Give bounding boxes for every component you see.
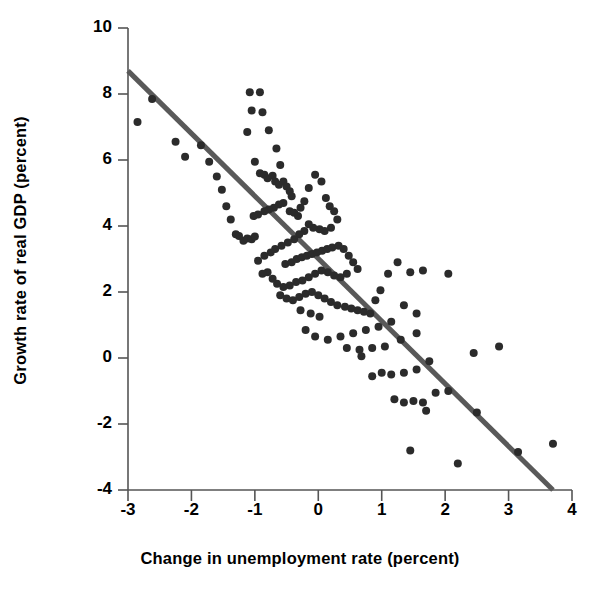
data-point xyxy=(254,257,262,265)
data-point xyxy=(256,88,264,96)
data-point xyxy=(248,107,256,115)
y-tick-label: 2 xyxy=(78,281,112,301)
data-point xyxy=(316,313,324,321)
data-point xyxy=(362,326,370,334)
data-point xyxy=(495,342,503,350)
data-point xyxy=(406,268,414,276)
data-point xyxy=(218,186,226,194)
data-point xyxy=(213,173,221,181)
data-point xyxy=(343,344,351,352)
data-point xyxy=(243,128,251,136)
x-tick-label: -3 xyxy=(113,500,143,520)
data-point xyxy=(422,407,430,415)
data-point xyxy=(134,118,142,126)
data-point xyxy=(425,357,433,365)
y-tick-label: 10 xyxy=(78,17,112,37)
data-point xyxy=(400,301,408,309)
data-point xyxy=(251,233,259,241)
data-point xyxy=(258,270,266,278)
data-point xyxy=(354,265,362,273)
x-tick-label: 3 xyxy=(494,500,524,520)
data-point xyxy=(276,161,284,169)
data-point xyxy=(387,371,395,379)
data-point xyxy=(381,342,389,350)
data-point xyxy=(258,108,266,116)
data-point xyxy=(514,448,522,456)
data-point xyxy=(336,333,344,341)
data-point xyxy=(384,270,392,278)
y-tick-label: 0 xyxy=(78,347,112,367)
data-point xyxy=(349,258,357,266)
data-point xyxy=(205,158,213,166)
data-point xyxy=(444,387,452,395)
y-tick-label: -4 xyxy=(78,479,112,499)
data-point xyxy=(400,369,408,377)
data-point xyxy=(345,252,353,260)
data-point xyxy=(371,296,379,304)
y-tick-label: -2 xyxy=(78,413,112,433)
data-point xyxy=(413,309,421,317)
y-axis-title-container: Growth rate of real GDP (percent) xyxy=(0,0,40,500)
data-point xyxy=(181,153,189,161)
x-axis-title: Change in unemployment rate (percent) xyxy=(0,549,600,568)
data-point xyxy=(227,215,235,223)
data-point xyxy=(394,258,402,266)
data-point xyxy=(376,286,384,294)
data-points-group xyxy=(134,88,557,467)
data-point xyxy=(305,184,313,192)
data-point xyxy=(400,399,408,407)
data-point xyxy=(357,352,365,360)
data-point xyxy=(260,252,268,260)
data-point xyxy=(297,306,305,314)
x-tick-label: 0 xyxy=(303,500,333,520)
tick-marks xyxy=(118,28,572,501)
data-point xyxy=(473,408,481,416)
data-point xyxy=(330,207,338,215)
scatter-chart-figure: Growth rate of real GDP (percent) -3-2-1… xyxy=(0,0,600,591)
data-point xyxy=(246,88,254,96)
data-point xyxy=(300,197,308,205)
data-point xyxy=(269,275,277,283)
data-point xyxy=(288,192,296,200)
x-tick-label: 2 xyxy=(430,500,460,520)
data-point xyxy=(397,336,405,344)
data-point xyxy=(250,212,258,220)
y-tick-label: 6 xyxy=(78,149,112,169)
data-point xyxy=(311,333,319,341)
data-point xyxy=(419,399,427,407)
data-point xyxy=(387,318,395,326)
y-axis-title: Growth rate of real GDP (percent) xyxy=(11,116,30,385)
data-point xyxy=(390,395,398,403)
data-point xyxy=(324,336,332,344)
data-point xyxy=(349,329,357,337)
data-point xyxy=(307,309,315,317)
data-point xyxy=(340,245,348,253)
data-point xyxy=(470,349,478,357)
data-point xyxy=(333,301,341,309)
data-point xyxy=(409,397,417,405)
data-point xyxy=(454,460,462,468)
data-point xyxy=(311,171,319,179)
data-point xyxy=(366,309,374,317)
data-point xyxy=(317,177,325,185)
data-point xyxy=(378,369,386,377)
data-point xyxy=(444,270,452,278)
data-point xyxy=(305,220,313,228)
data-point xyxy=(197,141,205,149)
data-point xyxy=(172,138,180,146)
x-tick-label: 1 xyxy=(367,500,397,520)
y-tick-label: 4 xyxy=(78,215,112,235)
data-point xyxy=(302,326,310,334)
data-point xyxy=(375,323,383,331)
data-point xyxy=(272,144,280,152)
data-point xyxy=(265,126,273,134)
data-point xyxy=(322,194,330,202)
data-point xyxy=(432,389,440,397)
data-point xyxy=(294,212,302,220)
data-point xyxy=(148,95,156,103)
data-point xyxy=(419,267,427,275)
x-tick-label: 4 xyxy=(557,500,587,520)
x-tick-label: -1 xyxy=(240,500,270,520)
x-tick-label: -2 xyxy=(176,500,206,520)
data-point xyxy=(368,372,376,380)
